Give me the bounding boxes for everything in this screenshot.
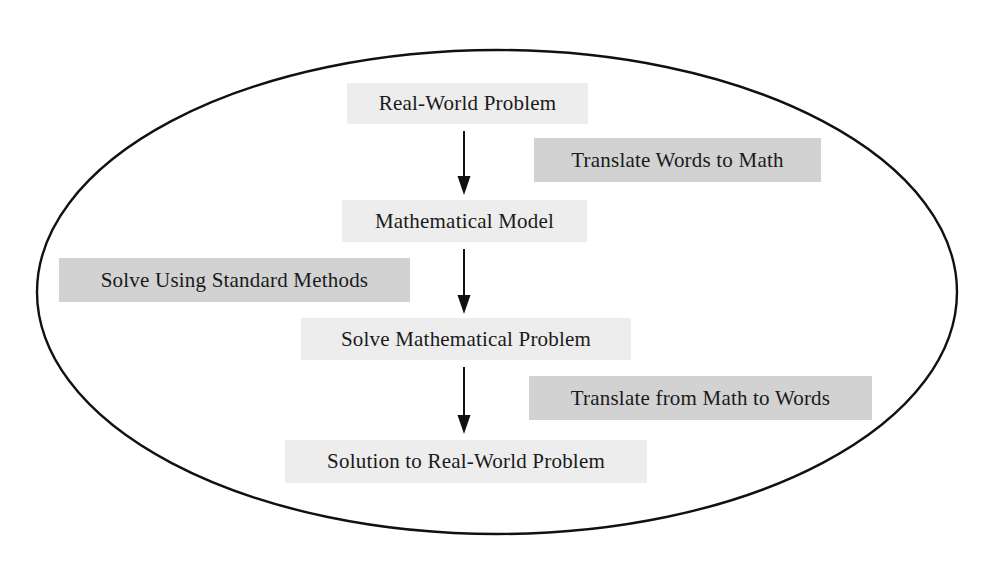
step-label: Mathematical Model: [375, 209, 554, 234]
step-real-world-problem: Real-World Problem: [347, 83, 588, 124]
action-label: Translate from Math to Words: [571, 386, 830, 411]
action-translate-words-to-math: Translate Words to Math: [534, 138, 821, 182]
action-translate-from-math-to-words: Translate from Math to Words: [529, 376, 872, 420]
diagram-canvas: Real-World Problem Mathematical Model So…: [0, 0, 994, 564]
step-solve-mathematical-problem: Solve Mathematical Problem: [301, 318, 631, 360]
step-label: Solve Mathematical Problem: [341, 327, 591, 352]
arrow-3: [458, 367, 471, 434]
action-label: Translate Words to Math: [571, 148, 783, 173]
step-mathematical-model: Mathematical Model: [342, 200, 587, 242]
action-label: Solve Using Standard Methods: [101, 268, 369, 293]
action-solve-using-standard-methods: Solve Using Standard Methods: [59, 258, 410, 302]
step-label: Real-World Problem: [379, 91, 556, 116]
step-solution-to-real-world-problem: Solution to Real-World Problem: [285, 440, 647, 483]
step-label: Solution to Real-World Problem: [327, 449, 605, 474]
arrow-1: [458, 131, 471, 195]
arrow-2: [458, 249, 471, 314]
